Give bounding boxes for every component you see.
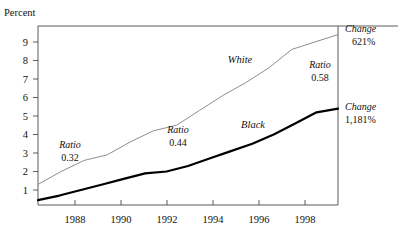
series-line-black	[38, 109, 338, 201]
line-chart: Percent 1 2 3 4 5 6 7 8 9	[0, 0, 402, 242]
annotation-label: Ratio	[308, 59, 331, 70]
annotation-value: 0.32	[61, 152, 79, 163]
annotation-value: 1,181%	[345, 114, 376, 125]
annotation-label: Ratio	[166, 124, 189, 135]
x-tick-label: 1996	[249, 214, 270, 225]
x-tick-labels: 1988 1990 1992 1994 1996 1998	[65, 214, 316, 225]
annotation-ratio-1993: Ratio 0.44	[166, 124, 189, 148]
y-axis-title: Percent	[4, 7, 36, 18]
x-tick-label: 1990	[111, 214, 132, 225]
y-tick-label: 1	[23, 185, 28, 196]
annotation-value: 621%	[352, 36, 375, 47]
y-tick-label: 5	[23, 111, 28, 122]
x-tick-label: 1998	[295, 214, 316, 225]
y-tick-labels: 1 2 3 4 5 6 7 8 9	[23, 37, 29, 196]
annotation-ratio-1998: Ratio 0.58	[308, 59, 331, 83]
plot-frame-top-left	[38, 26, 398, 205]
y-tick-label: 2	[23, 166, 28, 177]
chart-page: Percent 1 2 3 4 5 6 7 8 9	[0, 0, 402, 242]
annotation-label: Ratio	[58, 139, 81, 150]
y-tick-label: 4	[23, 129, 29, 140]
series-label-black: Black	[241, 119, 265, 130]
y-tick-label: 7	[23, 74, 28, 85]
annotation-value: 0.58	[311, 72, 329, 83]
annotation-change-white: Change 621%	[345, 23, 377, 47]
x-tick-label: 1988	[65, 214, 86, 225]
y-tick-label: 6	[23, 92, 28, 103]
annotation-value: 0.44	[169, 137, 187, 148]
annotation-label: Change	[345, 23, 377, 34]
series-label-white: White	[228, 54, 253, 65]
x-tick-label: 1994	[203, 214, 225, 225]
y-tick-marks	[33, 42, 38, 190]
y-tick-label: 9	[23, 37, 28, 48]
x-tick-label: 1992	[157, 214, 178, 225]
y-tick-label: 3	[23, 148, 28, 159]
series-line-white	[38, 35, 338, 185]
annotation-change-black: Change 1,181%	[345, 101, 377, 125]
annotation-label: Change	[345, 101, 377, 112]
x-tick-marks	[75, 200, 305, 205]
y-tick-label: 8	[23, 55, 28, 66]
annotation-ratio-1988: Ratio 0.32	[58, 139, 81, 163]
